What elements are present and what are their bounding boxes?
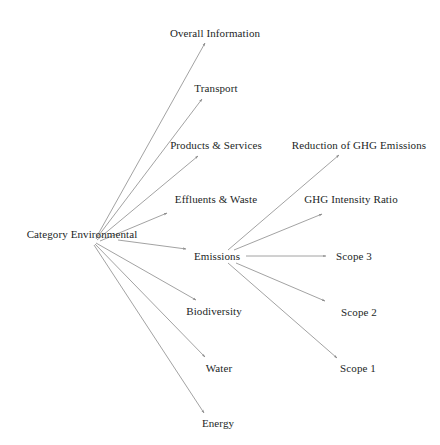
edge-emissions-to-ghg_intensity_ratio — [234, 214, 322, 250]
node-label-scope_1: Scope 1 — [340, 362, 376, 375]
node-label-scope_3: Scope 3 — [336, 250, 372, 263]
node-label-products_services: Products & Services — [170, 139, 262, 152]
node-label-transport: Transport — [194, 82, 237, 95]
edge-emissions-to-scope_1 — [228, 263, 337, 358]
diagram-canvas: Category EnvironmentalOverall Informatio… — [0, 0, 440, 445]
node-label-water: Water — [206, 362, 233, 375]
edge-category_environmental-to-emissions — [118, 240, 186, 249]
edge-category_environmental-to-transport — [96, 99, 202, 239]
node-label-ghg_intensity_ratio: GHG Intensity Ratio — [304, 193, 398, 206]
node-label-overall_information: Overall Information — [170, 27, 260, 40]
node-label-emissions: Emissions — [194, 250, 240, 263]
edge-category_environmental-to-energy — [94, 245, 204, 413]
diagram-edges — [0, 0, 440, 445]
node-label-biodiversity: Biodiversity — [186, 305, 242, 318]
node-label-reduction_ghg_emissions: Reduction of GHG Emissions — [292, 139, 426, 152]
node-label-scope_2: Scope 2 — [341, 306, 377, 319]
node-label-energy: Energy — [202, 417, 234, 430]
edge-category_environmental-to-water — [95, 244, 205, 357]
node-label-effluents_waste: Effluents & Waste — [175, 193, 257, 206]
node-label-category_environmental: Category Environmental — [27, 228, 138, 241]
